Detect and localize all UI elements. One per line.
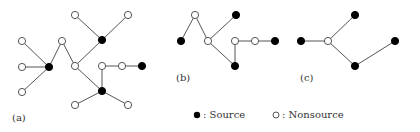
source-node (297, 37, 304, 44)
nonsource-node (71, 101, 78, 108)
nonsource-node (124, 11, 131, 18)
graph-edge (75, 91, 102, 105)
graph-edge (75, 66, 102, 91)
graph-edge (181, 15, 195, 41)
graph-edge (75, 40, 102, 66)
legend-nonsource-label: : Nonsource (282, 109, 344, 120)
graph-edge (22, 67, 49, 92)
graph-panel-b (177, 11, 278, 69)
source-node (98, 36, 105, 43)
legend-nonsource: : Nonsource (272, 109, 344, 120)
source-node (232, 11, 239, 18)
source-node (138, 62, 145, 69)
nonsource-node (18, 63, 25, 70)
source-node (391, 37, 398, 44)
legend-source-label: : Source (203, 109, 245, 120)
nonsource-node (118, 62, 125, 69)
nonsource-node (58, 37, 65, 44)
panel-label-a: (a) (12, 112, 26, 123)
graph-edge (75, 15, 102, 40)
nonsource-node (191, 11, 198, 18)
source-node-icon (193, 111, 201, 119)
graph-edge (49, 41, 62, 67)
nonsource-node (204, 37, 211, 44)
nonsource-node (71, 11, 78, 18)
source-node (351, 11, 358, 18)
nonsource-node (124, 101, 131, 108)
nonsource-node-icon (272, 111, 280, 119)
panel-label-b: (b) (176, 72, 190, 83)
graph-edge (208, 41, 235, 66)
graph-edge (208, 15, 236, 41)
source-node (177, 37, 184, 44)
graph-edge (102, 15, 128, 40)
source-node (231, 62, 238, 69)
nonsource-node (18, 88, 25, 95)
nonsource-node (71, 62, 78, 69)
graph-edge (355, 41, 395, 66)
source-node (98, 87, 105, 94)
source-node (351, 62, 358, 69)
nonsource-node (324, 37, 331, 44)
graph-edge (195, 15, 208, 41)
nonsource-node (18, 37, 25, 44)
source-node (271, 37, 278, 44)
source-node (45, 63, 52, 70)
nonsource-node (231, 37, 238, 44)
graph-edge (328, 15, 355, 41)
graph-edge (22, 41, 49, 67)
graph-panel-a (18, 11, 145, 108)
graph-edge (328, 41, 355, 66)
nonsource-node (98, 62, 105, 69)
panel-label-c: (c) (300, 72, 313, 83)
graph-edge (102, 91, 128, 105)
nonsource-node (251, 37, 258, 44)
graph-edge (62, 41, 75, 66)
legend-source: : Source (193, 109, 245, 120)
graph-panel-c (297, 11, 398, 69)
